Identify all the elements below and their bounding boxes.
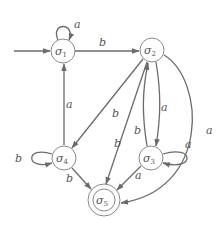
label-s1-s2: b [99, 36, 106, 49]
state-s4: σ4 [52, 146, 76, 170]
edges [14, 27, 192, 204]
label-s2-s5: b [114, 137, 121, 150]
label-s3-loop: a [185, 138, 192, 151]
label-s2-s5-curve: a [206, 124, 213, 137]
edge-s2-s5-curve [121, 55, 192, 203]
edge-s2-s4 [72, 59, 143, 148]
state-s2: σ2 [140, 38, 164, 62]
state-s1: σ1 [51, 39, 75, 63]
edge-s4-loop [32, 152, 52, 164]
edge-s4-s5 [72, 168, 91, 189]
label-s2-s3: a [161, 101, 168, 114]
label-s4-loop: b [15, 152, 22, 165]
label-s4-s5: b [66, 172, 73, 185]
label-s2-s4: b [112, 107, 119, 120]
edge-s1-loop [56, 27, 70, 41]
state-s3: σ3 [139, 146, 163, 170]
edge-s2-s3 [156, 62, 160, 146]
edge-s3-s2 [143, 63, 148, 146]
label-s4-s1: a [66, 98, 73, 111]
automaton-diagram: a b a b b b a a a a b b σ1 σ2 σ3 σ4 σ5 [0, 0, 224, 225]
label-s1-loop: a [74, 18, 81, 31]
label-s3-s5: a [135, 169, 142, 182]
label-s3-s2: b [134, 124, 141, 137]
state-s5-accepting: σ5 [88, 184, 120, 216]
